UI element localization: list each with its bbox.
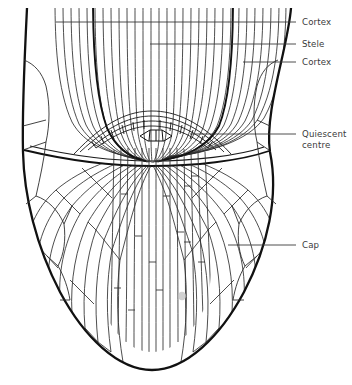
label-cap: Cap: [302, 240, 319, 251]
root-tip-figure: Cortex Stele Cortex Quiescent centre Cap: [0, 0, 352, 385]
label-quiescent-centre: Quiescent centre: [302, 129, 347, 150]
root-tip-diagram: [0, 0, 352, 385]
cap-cross-walls: [26, 168, 278, 352]
apical-meristem-arcs: [74, 111, 231, 154]
label-cortex-upper: Cortex: [302, 17, 331, 28]
label-stele: Stele: [302, 39, 325, 50]
quiescent-centre-cells: [140, 130, 172, 141]
page-smudge: [178, 292, 186, 300]
leader-lines: [56, 22, 296, 245]
label-cortex-lower: Cortex: [302, 57, 331, 68]
